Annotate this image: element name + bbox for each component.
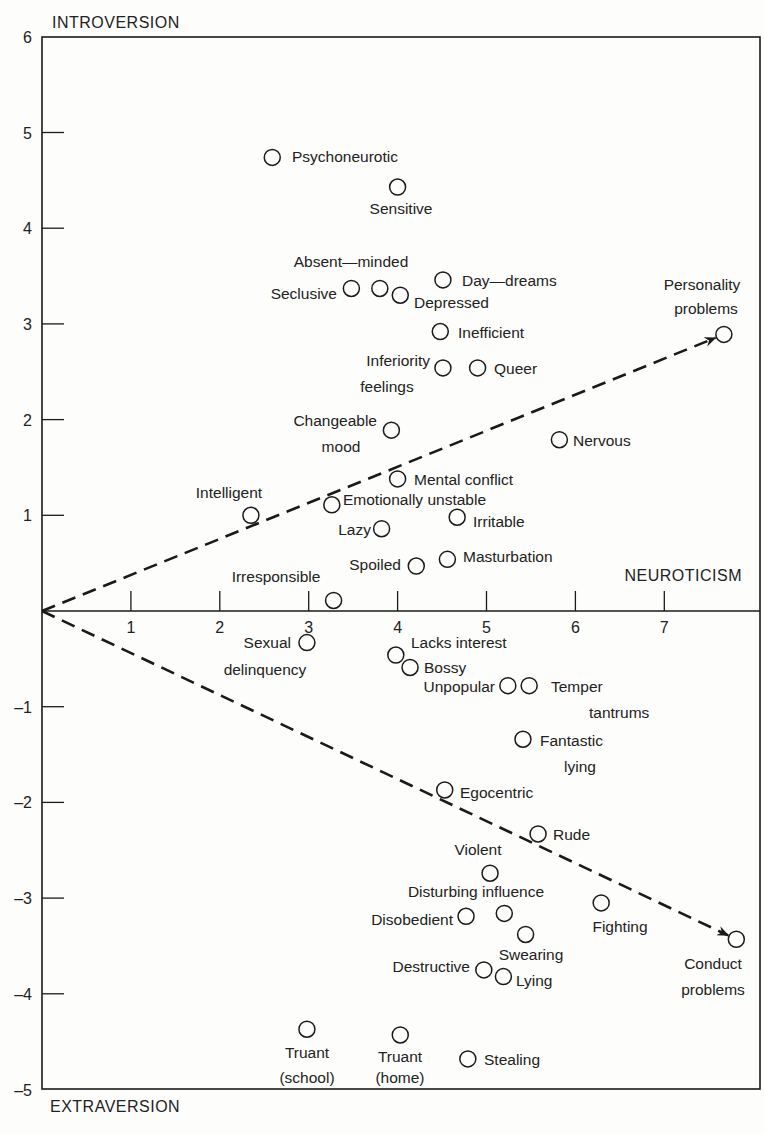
x-tick-label: 2 [215,619,224,636]
data-point: Lazy [338,521,389,538]
point-marker-icon [299,635,315,651]
data-point: Sensitive [370,179,433,217]
factor-vector [42,611,728,935]
data-point: Tempertantrums [521,678,649,721]
point-marker-icon [408,558,424,574]
x-tick-label: 3 [304,619,313,636]
point-marker-icon [496,905,512,921]
x-tick-label: 1 [126,619,135,636]
y-tick-label: 5 [23,125,32,142]
x-axis-ticks: 1234567 [126,591,668,636]
point-marker-icon [390,471,406,487]
data-point: Swearing [499,926,564,963]
point-label-line2: lying [564,758,596,775]
point-label: Swearing [499,946,564,963]
point-label: Mental conflict [414,471,514,488]
point-label: Lying [516,972,552,989]
y-tick-label: 6 [23,29,32,46]
point-label: Egocentric [460,784,533,801]
point-marker-icon [470,360,486,376]
point-marker-icon [435,272,451,288]
data-point: Disobedient [371,908,474,928]
point-marker-icon [593,895,609,911]
point-marker-icon [716,326,732,342]
point-marker-icon [383,422,399,438]
data-points: PsychoneuroticSensitiveAbsent—mindedSecl… [196,148,745,1086]
point-label: Truant [285,1044,330,1061]
point-label: Nervous [573,432,631,449]
data-point: Fantasticlying [515,731,603,775]
data-point: Bossy [402,659,466,676]
data-point: Intelligent [196,484,263,523]
point-label: Irritable [473,513,525,530]
x-tick-label: 6 [571,619,580,636]
y-tick-label: 1 [23,507,32,524]
y-tick-label: –4 [14,986,32,1003]
point-marker-icon [402,659,418,675]
data-point: Changeablemood [293,412,399,455]
point-marker-icon [437,782,453,798]
y-axis-ticks: 654321–1–2–3–4–5 [14,29,64,1099]
point-marker-icon [372,280,388,296]
y-tick-label: –5 [14,1082,32,1099]
point-label: Emotionally unstable [343,491,486,508]
data-point: Egocentric [437,782,534,801]
point-label: Personality [664,276,741,293]
point-label-line2: (school) [279,1069,334,1086]
x-tick-label: 7 [660,619,669,636]
x-tick-label: 4 [393,619,402,636]
data-point: Irritable [449,509,525,530]
point-label-line2: feelings [360,378,414,395]
data-point: Sexualdelinquency [224,634,315,678]
point-marker-icon [551,432,567,448]
data-point: Irresponsible [232,568,342,608]
y-axis-title-bottom: EXTRAVERSION [50,1098,180,1115]
point-marker-icon [482,865,498,881]
point-label: Day—dreams [462,272,557,289]
point-marker-icon [435,360,451,376]
data-point: Destructive [392,958,491,978]
data-point: Conductproblems [681,931,745,998]
point-marker-icon [460,1051,476,1067]
point-marker-icon [728,931,744,947]
point-marker-icon [495,969,511,985]
point-label: Bossy [424,659,466,676]
y-axis-title-top: INTROVERSION [52,14,180,31]
point-marker-icon [299,1021,315,1037]
point-marker-icon [324,497,340,513]
point-marker-icon [326,592,342,608]
point-marker-icon [449,509,465,525]
point-label: Depressed [414,294,489,311]
y-tick-label: –3 [14,890,32,907]
point-marker-icon [515,731,531,747]
point-label: Spoiled [349,556,401,573]
y-tick-label: –1 [14,699,32,716]
data-point: Violent [454,841,502,881]
scatter-chart: INTROVERSION EXTRAVERSION NEUROTICISM 12… [0,0,764,1134]
point-label: Seclusive [271,285,337,302]
point-marker-icon [374,521,390,537]
point-label-line2: (home) [375,1069,424,1086]
point-label: Intelligent [196,484,263,501]
y-tick-label: 2 [23,412,32,429]
point-label: Rude [553,826,590,843]
point-label-line2: delinquency [224,661,307,678]
data-point: Truant(home) [375,1027,424,1086]
point-label: Absent—minded [294,253,409,270]
point-label: Violent [454,841,502,858]
point-label: Changeable [293,412,377,429]
point-marker-icon [343,280,359,296]
point-label: Truant [378,1048,423,1065]
data-point: Day—dreams [435,272,557,289]
data-point: Stealing [460,1051,540,1068]
point-marker-icon [392,287,408,303]
point-marker-icon [392,1027,408,1043]
data-point: Emotionally unstable [324,491,486,513]
x-axis-title: NEUROTICISM [625,567,743,584]
data-point: Psychoneurotic [264,148,398,165]
point-label: Disobedient [371,911,454,928]
data-point: Inefficient [432,324,524,341]
point-marker-icon [518,926,534,942]
point-label: Conduct [684,955,742,972]
point-label-line2: mood [322,438,361,455]
